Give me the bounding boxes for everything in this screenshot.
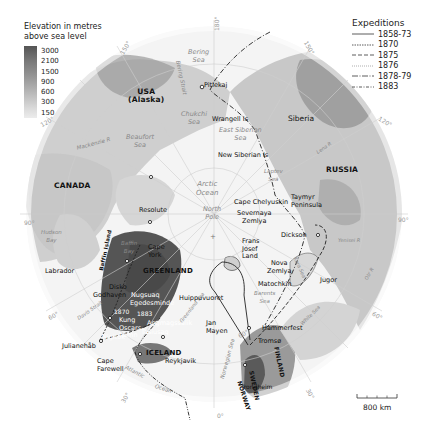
- label-severnaya-zemlya: Severnaya Zemlya: [237, 210, 271, 225]
- legend-label: 1878-79: [378, 72, 411, 81]
- label-egedesminde: Egedesminde: [130, 300, 174, 308]
- label-arctic-line1: Arctic: [196, 180, 218, 189]
- label-huippuvuoret: Huippuvuoret: [179, 295, 223, 303]
- label-nigitok: Nigitok: [102, 334, 125, 342]
- label-laptev-line1: Laptev: [264, 168, 283, 176]
- label-beaufort-sea: Beaufort Sea: [126, 134, 154, 149]
- label-matochkin: Matochkin: [258, 281, 292, 289]
- label-reykjavik: Reykjavik: [165, 358, 196, 366]
- solid-line-icon: [352, 32, 374, 36]
- label-wrangell-is: Wrangell Is: [212, 116, 248, 124]
- label-tromso: Tromsø: [258, 338, 281, 346]
- label-pitlekaj: Pitlekaj: [204, 82, 227, 90]
- label-chukchi-sea: Chukchi Sea: [181, 111, 207, 126]
- label-chukchi-line2: Sea: [181, 119, 207, 127]
- label-arctic-line2: Ocean: [196, 189, 218, 198]
- label-taymyr-peninsula: Taymyr Peninsula: [291, 194, 322, 209]
- label-baffin-bay-line2: Bay: [121, 248, 137, 256]
- legend-label: 1883: [378, 82, 398, 91]
- label-godhaven: Godhaven: [93, 292, 126, 300]
- elevation-level: 900: [41, 77, 59, 87]
- fine-dotted-line-icon: [352, 64, 374, 68]
- label-cape-farewell-line2: Farewell: [97, 366, 124, 374]
- elevation-level: 600: [41, 87, 59, 97]
- legend-label: 1870: [378, 40, 398, 49]
- label-laptev-line2: Sea: [264, 176, 283, 184]
- label-jugor: Jugor: [320, 277, 337, 285]
- label-north-pole: North Pole: [203, 206, 221, 221]
- label-labrador: Labrador: [45, 268, 74, 276]
- label-siberia: Siberia: [288, 115, 314, 123]
- legend-item-1875: 1875: [352, 50, 411, 61]
- label-hudson-line2: Bay: [41, 237, 62, 245]
- label-east-siberian-line2: Sea: [219, 135, 262, 143]
- expeditions-legend: Expeditions 1858-73 1870 1875 1876 1878-…: [352, 18, 411, 92]
- label-hudson-bay: Hudson Bay: [41, 229, 62, 244]
- legend-item-1883: 1883: [352, 82, 411, 93]
- label-laptev-sea: Laptev Sea: [264, 168, 283, 183]
- label-jan-mayen: Jan Mayen: [206, 320, 228, 335]
- elevation-legend-title: Elevation in metres above sea level: [24, 22, 104, 42]
- dash-dot-line-icon: [352, 74, 374, 78]
- legend-item-1876: 1876: [352, 61, 411, 72]
- label-usa: USA (Alaska): [128, 88, 164, 103]
- elevation-title-line2: above sea level: [24, 32, 104, 42]
- label-taymyr-line2: Peninsula: [291, 202, 322, 210]
- label-lon-0: 0°: [217, 412, 224, 420]
- label-lon-90e: 90°: [398, 216, 409, 224]
- elevation-level: 2100: [41, 56, 59, 66]
- expeditions-legend-title: Expeditions: [352, 18, 411, 28]
- label-new-siberian-is: New Siberian Is: [218, 152, 268, 160]
- dotted-line-icon: [352, 43, 374, 47]
- elevation-levels: 3000 2100 1500 900 600 300 150: [41, 46, 59, 118]
- label-baffin-bay-line1: Baffin: [121, 240, 137, 248]
- label-north-pole-line2: Pole: [203, 214, 221, 222]
- label-severnaya-line2: Zemlya: [237, 218, 271, 226]
- label-frans-josef-land: Frans Josef Land: [242, 238, 259, 261]
- label-yenisei-river: Yenisei R: [338, 237, 360, 245]
- north-pole-marker: +: [210, 233, 216, 241]
- label-bering-sea: Bering Sea: [188, 49, 209, 64]
- elevation-color-ramp: [24, 46, 37, 118]
- label-arctic-ocean: Arctic Ocean: [196, 180, 218, 197]
- elevation-level: 1500: [41, 67, 59, 77]
- label-beaufort-line2: Sea: [126, 142, 154, 150]
- label-russia: RUSSIA: [326, 166, 358, 174]
- legend-item-1870: 1870: [352, 40, 411, 51]
- label-frans-line3: Land: [242, 253, 259, 261]
- label-hammerfest: Hammerfest: [262, 325, 302, 333]
- label-tasiusaq: Tasiusaq: [141, 329, 169, 337]
- label-angmagssalik: Angmagssalik: [147, 320, 192, 328]
- elevation-level: 300: [41, 97, 59, 107]
- label-canada: CANADA: [54, 182, 91, 190]
- label-baffin-bay: Baffin Bay: [121, 240, 137, 255]
- label-barents-line2: Sea: [254, 298, 275, 306]
- label-lon-90w: 90°: [24, 219, 35, 227]
- label-trondheim: Trondheim: [241, 383, 272, 391]
- label-hudson-line1: Hudson: [41, 229, 62, 237]
- dashed-line-icon: [352, 53, 374, 57]
- elevation-title-line1: Elevation in metres: [24, 22, 104, 32]
- label-nova-line2: Zemlya: [267, 268, 291, 276]
- scale-bar-label: 800 km: [363, 403, 398, 412]
- label-julianehab: Julianehåb: [62, 343, 96, 351]
- label-bering-sea-line2: Sea: [188, 57, 209, 65]
- label-cape-farewell: Cape Farewell: [97, 358, 124, 373]
- legend-item-1858-73: 1858-73: [352, 29, 411, 40]
- legend-label: 1876: [378, 61, 398, 70]
- label-cape-chelyuskin: Cape Chelyuskin: [234, 199, 288, 207]
- label-greenland: GREENLAND: [143, 268, 193, 276]
- label-barents-sea: Barents Sea: [254, 290, 275, 305]
- label-jan-mayen-line2: Mayen: [206, 328, 228, 336]
- label-dickson: Dickson: [281, 232, 307, 240]
- label-cape-york-line2: York: [148, 252, 165, 260]
- legend-label: 1875: [378, 51, 398, 60]
- label-year-1870: 1870: [114, 308, 129, 316]
- label-lon-180: 180°: [213, 17, 221, 31]
- legend-label: 1858-73: [378, 30, 411, 39]
- label-alaska-text: (Alaska): [128, 96, 164, 104]
- elevation-level: 3000: [41, 46, 59, 56]
- label-nova-zemlya: Nova Zemlya: [267, 260, 291, 275]
- legend-item-1878-79: 1878-79: [352, 71, 411, 82]
- dash-dot-dot-line-icon: [352, 85, 374, 89]
